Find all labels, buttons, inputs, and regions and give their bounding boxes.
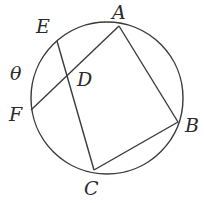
label-a: A <box>110 1 126 23</box>
label-theta: θ <box>10 62 22 84</box>
circle <box>31 22 183 174</box>
circle-geometry-diagram: A E θ D F B C <box>0 0 204 203</box>
segment-ab <box>119 26 178 122</box>
label-b: B <box>184 114 199 136</box>
label-f: F <box>8 103 23 125</box>
segment-af <box>31 26 119 110</box>
label-d: D <box>76 68 92 90</box>
label-c: C <box>84 177 99 199</box>
label-e: E <box>35 15 50 37</box>
segment-ec <box>57 41 94 170</box>
